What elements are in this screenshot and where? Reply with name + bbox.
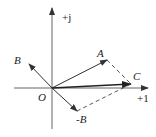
vector-a-label: A bbox=[96, 47, 104, 59]
vector-c-label: C bbox=[133, 70, 141, 82]
vector-neg-b-label: -B bbox=[76, 113, 87, 125]
vertical-axis-label: +j bbox=[62, 11, 71, 23]
phasor-diagram: +j +1 O A B -B C bbox=[0, 0, 156, 137]
vector-neg-b bbox=[52, 88, 77, 111]
vector-a bbox=[52, 60, 107, 88]
horizontal-axis-label: +1 bbox=[137, 92, 149, 104]
vector-c bbox=[52, 84, 131, 88]
dashed-a-to-c bbox=[107, 60, 131, 84]
vector-b-label: B bbox=[14, 54, 21, 66]
vector-b bbox=[29, 64, 52, 88]
origin-label: O bbox=[38, 91, 46, 103]
